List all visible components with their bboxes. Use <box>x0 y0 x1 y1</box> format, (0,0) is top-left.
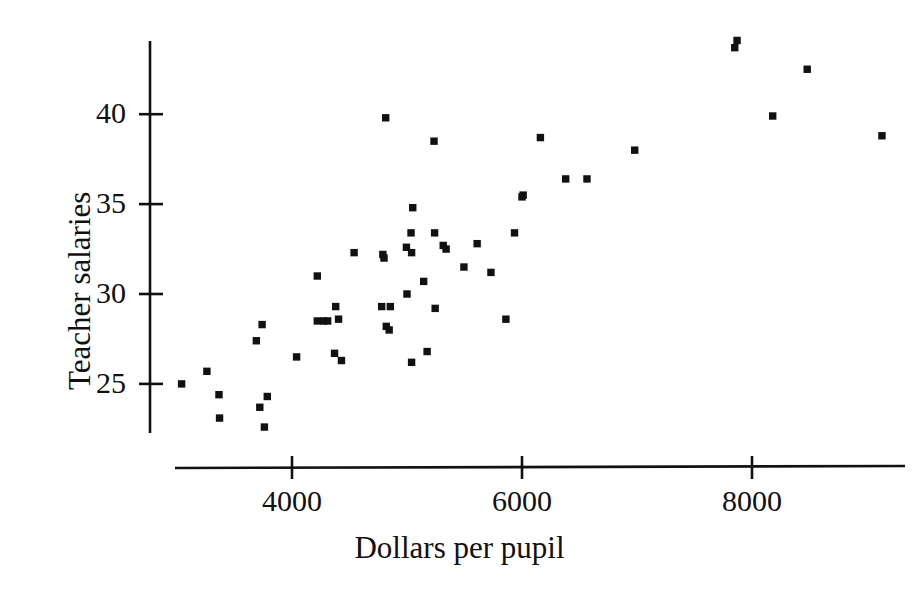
data-point <box>502 315 509 322</box>
x-tick-label-8000: 8000 <box>707 486 797 516</box>
data-point <box>408 249 415 256</box>
scatter-plot-figure: Teacher salaries Dollars per pupil 25303… <box>0 0 919 606</box>
data-point <box>264 393 271 400</box>
data-point <box>256 404 263 411</box>
data-point <box>423 348 430 355</box>
x-axis-title: Dollars per pupil <box>0 530 919 566</box>
data-point <box>338 357 345 364</box>
data-point <box>409 204 416 211</box>
data-point <box>203 368 210 375</box>
data-point <box>350 249 357 256</box>
data-point <box>878 132 885 139</box>
data-point <box>487 269 494 276</box>
y-tick-label-40: 40 <box>78 98 126 128</box>
data-point <box>473 240 480 247</box>
data-point <box>378 303 385 310</box>
data-point <box>314 317 321 324</box>
data-point <box>460 263 467 270</box>
data-point <box>537 134 544 141</box>
data-point <box>583 175 590 182</box>
data-point <box>387 303 394 310</box>
data-point <box>178 380 185 387</box>
data-point <box>804 66 811 73</box>
data-point <box>385 326 392 333</box>
data-point <box>314 272 321 279</box>
data-points <box>178 37 886 431</box>
data-point <box>420 278 427 285</box>
data-point <box>253 337 260 344</box>
x-tick-label-4000: 4000 <box>247 486 337 516</box>
y-tick-label-30: 30 <box>78 278 126 308</box>
y-tick-label-35: 35 <box>78 188 126 218</box>
data-point <box>431 305 438 312</box>
data-point <box>562 175 569 182</box>
data-point <box>258 321 265 328</box>
data-point <box>442 245 449 252</box>
data-point <box>216 414 223 421</box>
data-point <box>408 359 415 366</box>
data-point <box>731 44 738 51</box>
x-tick-label-6000: 6000 <box>477 486 567 516</box>
data-point <box>215 391 222 398</box>
data-point <box>403 290 410 297</box>
data-point <box>631 146 638 153</box>
data-point <box>332 303 339 310</box>
data-point <box>382 114 389 121</box>
data-point <box>431 229 438 236</box>
x-axis-line <box>175 466 905 468</box>
data-point <box>261 423 268 430</box>
data-point <box>331 350 338 357</box>
data-point <box>430 137 437 144</box>
y-tick-label-25: 25 <box>78 368 126 398</box>
data-point <box>407 229 414 236</box>
data-point <box>324 317 331 324</box>
data-point <box>380 254 387 261</box>
data-point <box>293 353 300 360</box>
data-point <box>519 191 526 198</box>
data-point <box>769 112 776 119</box>
data-point <box>733 37 740 44</box>
data-point <box>335 315 342 322</box>
data-point <box>511 229 518 236</box>
